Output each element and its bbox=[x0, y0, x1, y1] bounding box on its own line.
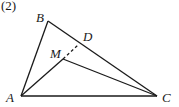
label-C: C bbox=[162, 90, 171, 105]
label-M: M bbox=[49, 46, 62, 61]
label-D: D bbox=[82, 29, 93, 44]
segment-MD-dashed bbox=[63, 45, 78, 59]
label-B: B bbox=[36, 10, 44, 25]
triangle-diagram: (2) B D M A C bbox=[0, 0, 179, 107]
figure-caption: (2) bbox=[1, 0, 16, 13]
segment-MC bbox=[63, 59, 157, 96]
label-A: A bbox=[5, 90, 14, 105]
